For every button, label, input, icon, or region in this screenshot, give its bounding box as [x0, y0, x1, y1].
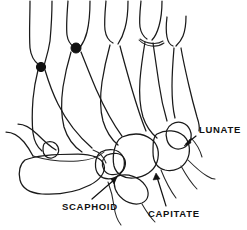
- lower-margin-right-a: [161, 170, 176, 198]
- capitate-leader-line: [157, 177, 166, 206]
- label-lunate: LUNATE: [199, 124, 241, 135]
- phalanx-3-right-edge: [118, 1, 128, 44]
- metacarpal-5-medial: [181, 48, 199, 131]
- anatomical-figure: LUNATE SCAPHOID CAPITATE: [0, 0, 247, 230]
- annotation-group: LUNATE SCAPHOID CAPITATE: [62, 124, 241, 219]
- marker-dots-group: [36, 43, 81, 72]
- bone-drawing-svg: LUNATE SCAPHOID CAPITATE: [0, 0, 247, 230]
- lower-margin-right-b: [181, 166, 197, 189]
- lower-margin-right-c: [188, 160, 215, 179]
- metacarpal-2-medial: [81, 52, 122, 136]
- capitate-arrow-head: [153, 173, 160, 180]
- phalanx-2-left-edge: [67, 1, 74, 47]
- metacarpals-group: [32, 42, 199, 152]
- metacarpal-1-medial: [45, 70, 92, 148]
- phalanx-5-right-edge: [176, 16, 186, 46]
- carpal-scaphoid: [114, 175, 148, 204]
- metacarpal-5-lateral: [172, 48, 175, 118]
- phalanx-1-right-edge: [44, 1, 52, 66]
- forearm-group: [6, 124, 106, 194]
- metacarpal-4-medial: [153, 43, 167, 121]
- thumb-metacarpal-lower: [6, 132, 33, 156]
- phalanx-3-left-edge: [105, 1, 113, 43]
- ulnar-side-curve: [191, 138, 202, 157]
- metacarpal-3-lateral: [101, 45, 118, 145]
- marker-dot-1: [36, 62, 45, 71]
- carpal-lunate: [166, 122, 191, 149]
- phalanges-group: [30, 1, 186, 66]
- carpal-bones-group: [43, 122, 191, 204]
- label-capitate: CAPITATE: [148, 208, 200, 219]
- label-scaphoid: SCAPHOID: [62, 201, 118, 212]
- phalanx-4-left-edge: [140, 1, 147, 39]
- phalanx-5-left-edge: [166, 17, 173, 46]
- phalanx-4-right-edge: [152, 1, 162, 40]
- carpal-capitate: [113, 134, 158, 178]
- marker-dot-2: [71, 43, 81, 53]
- metacarpal-1-lateral: [32, 70, 42, 151]
- radius-outline: [19, 154, 104, 194]
- phalanx-2-right-edge: [79, 1, 90, 49]
- metacarpal-2-lateral: [62, 52, 82, 152]
- phalanx-1-left-edge: [30, 1, 39, 65]
